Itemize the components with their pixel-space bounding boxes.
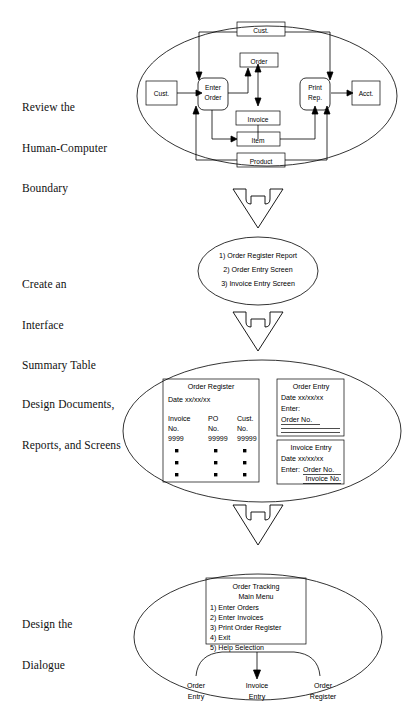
dfd-external-acct <box>352 81 380 105</box>
order-register-col2-value: 99999 <box>208 435 228 443</box>
summary-item-3: 3) Invoice Entry Screen <box>221 280 295 288</box>
diagram-page: Review the Human-Computer Boundary Creat… <box>0 0 404 722</box>
invoice-entry-enter-label: Enter: <box>281 466 300 474</box>
order-entry-enter-label: Enter: <box>281 405 300 413</box>
stage-label-design-documents: Design Documents, Reports, and Screens <box>22 371 121 479</box>
dfd-store-invoice <box>236 111 280 125</box>
order-register-col3-header-2: No. <box>237 425 248 433</box>
branch-right-label-2: Register <box>310 693 337 701</box>
dfd-process-print-rep <box>300 78 330 110</box>
order-register-col2-header-1: PO <box>208 415 219 423</box>
main-menu-option-1: 1) Enter Orders <box>210 604 259 612</box>
dfd-store-product <box>237 153 285 167</box>
invoice-entry-title: Invoice Entry <box>290 444 331 452</box>
dfd-store-item <box>237 132 280 146</box>
dfd-connectors <box>177 32 353 160</box>
dfd-external-cust-label: Cust. <box>154 90 170 97</box>
summary-item-1: 1) Order Register Report <box>219 252 297 260</box>
stage-3-ellipse <box>123 360 401 502</box>
stage-label-line-2: Dialogue <box>22 659 73 673</box>
branch-right-label-1: Order <box>314 682 333 690</box>
order-entry-title: Order Entry <box>293 383 330 391</box>
dialogue-branch-connectors <box>196 652 320 679</box>
flow-arrow-1 <box>233 189 283 228</box>
stage-label-line-1: Create an <box>22 278 96 292</box>
summary-item-2: 2) Order Entry Screen <box>223 266 292 274</box>
invoice-entry-field-rules <box>303 475 341 484</box>
invoice-entry-field-1: Order No. <box>303 466 334 474</box>
order-register-col1-value: 9999 <box>168 435 184 443</box>
dfd-store-invoice-label: Invoice <box>248 116 269 123</box>
invoice-entry-field-2: Invoice No. <box>306 475 342 483</box>
dfd-external-cust <box>146 81 177 105</box>
main-menu-box <box>206 578 306 644</box>
stage-label-review-boundary: Review the Human-Computer Boundary <box>22 74 107 223</box>
order-register-date: Date xx/xx/xx <box>168 396 211 404</box>
order-register-data-dots <box>175 449 246 476</box>
stage-label-line-3: Boundary <box>22 182 107 196</box>
dfd-process-enter-order-label-1: Enter <box>205 84 222 91</box>
stage-label-line-2: Interface <box>22 319 96 333</box>
dfd-store-cust-label: Cust. <box>253 27 269 34</box>
stage-label-line-2: Human-Computer <box>22 142 107 156</box>
stage-label-line-1: Design Documents, <box>22 398 121 412</box>
order-entry-date: Date xx/xx/xx <box>281 394 324 402</box>
stage-label-line-2: Reports, and Screens <box>22 439 121 453</box>
flow-arrow-3 <box>233 505 283 545</box>
stage-4-ellipse <box>134 574 382 700</box>
stage-label-line-1: Review the <box>22 101 107 115</box>
stage-label-line-1: Design the <box>22 618 73 632</box>
order-entry-box <box>277 379 344 436</box>
branch-left-label-2: Entry <box>188 693 205 701</box>
dfd-store-order <box>240 53 278 67</box>
main-menu-title-1: Order Tracking <box>233 583 280 591</box>
branch-left-label-1: Order <box>187 682 206 690</box>
dfd-store-product-label: Product <box>250 158 273 165</box>
stage-1-ellipse <box>137 26 397 166</box>
stage-2-ellipse <box>198 237 318 305</box>
dfd-process-print-rep-label-1: Print <box>308 84 322 91</box>
invoice-entry-box <box>277 440 344 484</box>
main-menu-option-2: 2) Enter Invoices <box>210 614 264 622</box>
order-register-col3-header-1: Cust. <box>237 415 254 423</box>
main-menu-option-3: 3) Print Order Register <box>210 624 282 632</box>
order-register-col2-header-2: No. <box>208 425 219 433</box>
order-register-col1-header-1: Invoice <box>168 415 191 423</box>
flow-arrow-2 <box>233 312 283 351</box>
dfd-store-order-label: Order <box>251 58 269 65</box>
dfd-process-print-rep-label-2: Rep. <box>308 94 322 102</box>
order-entry-field-rules <box>281 425 340 433</box>
order-register-box <box>163 379 259 482</box>
dfd-store-cust <box>237 22 285 36</box>
branch-mid-label-2: Entry <box>249 693 266 701</box>
dfd-process-enter-order-label-2: Order <box>205 94 223 101</box>
main-menu-option-4: 4) Exit <box>210 634 230 642</box>
main-menu-option-5: 5) Help Selection <box>210 644 264 652</box>
dfd-process-enter-order <box>198 78 228 110</box>
order-entry-field-1: Order No. <box>281 416 312 424</box>
order-register-col3-value: 99999 <box>237 435 257 443</box>
invoice-entry-date: Date xx/xx/xx <box>281 455 324 463</box>
order-register-col1-header-2: No. <box>168 425 179 433</box>
branch-mid-label-1: Invoice <box>246 682 269 690</box>
order-register-title: Order Register <box>188 383 235 391</box>
stage-label-design-dialogue: Design the Dialogue <box>22 591 73 699</box>
dfd-store-item-label: Item <box>252 137 265 144</box>
dfd-external-acct-label: Acct. <box>359 90 374 97</box>
main-menu-title-2: Main Menu <box>238 593 273 601</box>
